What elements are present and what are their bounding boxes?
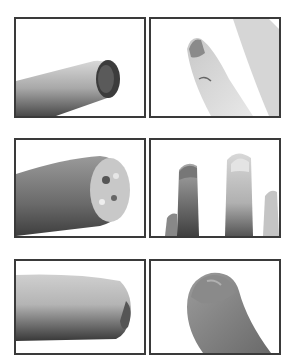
finger-healed-tip-image	[16, 261, 144, 353]
finger-damaged-nail-image	[151, 19, 279, 116]
photo-panel-1	[14, 17, 146, 118]
photo-panel-2	[149, 17, 281, 118]
finger-necrotic-tip-image	[16, 19, 144, 116]
photo-panel-6	[149, 259, 281, 355]
finger-regrown-nail-image	[151, 261, 279, 353]
photo-panel-3	[14, 138, 146, 238]
photo-panel-4	[149, 138, 281, 238]
injured-and-healthy-fingers-image	[151, 140, 279, 236]
photo-panel-5	[14, 259, 146, 355]
finger-crusted-wound-image	[16, 140, 144, 236]
